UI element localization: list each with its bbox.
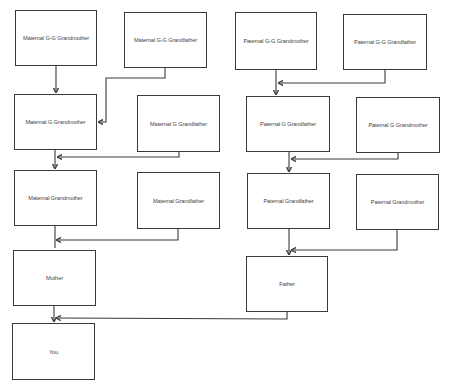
node-label: Maternal G Grandmother [24,119,88,125]
node-paternal-gg-grandfather[interactable]: Paternal G-G Grandfather [343,14,427,70]
node-mother[interactable]: Mother [13,250,96,306]
node-maternal-g-grandmother[interactable]: Maternal G Grandmother [14,94,97,150]
node-maternal-grandmother[interactable]: Maternal Grandmother [14,170,97,226]
node-label: Father [277,281,297,287]
node-paternal-g-grandfather[interactable]: Paternal G Grandfather [246,96,330,152]
node-label: Paternal G Grandfather [258,121,318,127]
node-label: Maternal G-G Grandfather [132,37,199,43]
edge-pggf-pgf [279,70,385,83]
edge-father-you [57,312,287,319]
node-label: Maternal G-G Grandmother [21,35,91,41]
node-paternal-grandfather[interactable]: Paternal Grandfather [247,173,330,229]
edge-pgrandmother-father [292,230,397,250]
node-maternal-gg-grandfather[interactable]: Maternal G-G Grandfather [124,12,207,68]
node-label: Paternal Grandmother [369,199,426,205]
node-father[interactable]: Father [246,256,328,312]
node-label: Maternal Grandfather [151,198,206,204]
edge-pgm-pgrandfather [292,153,398,159]
node-label: Paternal G-G Grandmother [241,38,310,44]
edge-mgrandfather-mother [57,229,178,240]
node-label: Mother [44,275,65,281]
node-paternal-grandmother[interactable]: Paternal Grandmother [356,174,439,230]
node-maternal-g-grandfather[interactable]: Maternal G Grandfather [137,95,220,152]
node-label: Paternal G-G Grandfather [352,39,418,45]
node-you[interactable]: You [12,323,95,380]
node-label: Maternal G Grandfather [148,121,209,127]
node-label: Paternal Grandfather [261,198,315,204]
node-label: You [47,349,60,355]
edge-mgf-mgrandmother [58,152,179,157]
node-maternal-gg-grandmother[interactable]: Maternal G-G Grandmother [15,10,97,66]
node-paternal-gg-grandmother[interactable]: Paternal G-G Grandmother [235,12,317,70]
node-paternal-g-grandmother[interactable]: Paternal G Grandmother [356,97,440,153]
node-maternal-grandfather[interactable]: Maternal Grandfather [137,172,220,229]
node-label: Maternal Grandmother [26,195,84,201]
node-label: Paternal G Grandmother [366,122,429,128]
